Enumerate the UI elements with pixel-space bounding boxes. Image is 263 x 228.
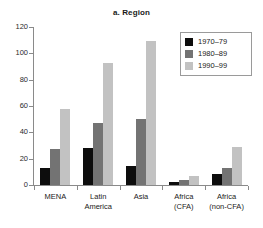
chart-title: a. Region [0,8,263,17]
x-axis-tick [120,186,121,190]
bar [146,41,156,185]
y-axis-tick-label: 80 [2,76,28,84]
bar [232,147,242,185]
bar [179,180,189,185]
y-axis-tick-label: 40 [2,128,28,136]
x-axis-tick [34,186,35,190]
bar-group [83,27,113,185]
bar [50,149,60,185]
y-axis-tick [29,106,34,107]
bar [60,109,70,185]
bar [189,176,199,185]
y-axis-tick-label: 100 [2,49,28,57]
legend-swatch-icon-1980-89 [185,50,193,58]
bar [222,168,232,185]
y-axis-tick [29,159,34,160]
bar [83,148,93,185]
x-axis-category-label: Africa (non-CFA) [199,192,254,212]
legend-swatch-icon-1970-79 [185,38,193,46]
x-axis-tick [248,186,249,190]
y-axis-tick [29,53,34,54]
x-axis-tick [77,186,78,190]
x-axis-line [33,185,248,186]
legend-swatch-icon-1990-99 [185,62,193,70]
bar-group [126,27,156,185]
legend-label-1990-99: 1990–99 [198,62,227,70]
x-axis-tick [205,186,206,190]
bar [126,166,136,185]
legend-item-1990-99: 1990–99 [185,60,247,72]
y-axis-tick-label: 120 [2,23,28,31]
y-axis-tick-label: 20 [2,155,28,163]
y-axis-tick [29,132,34,133]
bar [93,123,103,185]
chart-legend: 1970–79 1980–89 1990–99 [180,32,252,76]
bar [212,174,222,185]
legend-item-1980-89: 1980–89 [185,48,247,60]
y-axis-tick [29,80,34,81]
y-axis-tick-label: 0 [2,181,28,189]
bar-chart-region: a. Region 020406080100120 MENALatin Amer… [0,0,263,228]
legend-item-1970-79: 1970–79 [185,36,247,48]
bar [103,63,113,185]
y-axis-tick-label: 60 [2,102,28,110]
bar [169,182,179,185]
bar [136,119,146,185]
legend-label-1980-89: 1980–89 [198,50,227,58]
y-axis-tick [29,27,34,28]
bar-group [40,27,70,185]
legend-label-1970-79: 1970–79 [198,38,227,46]
bar [40,168,50,185]
x-axis-tick [162,186,163,190]
